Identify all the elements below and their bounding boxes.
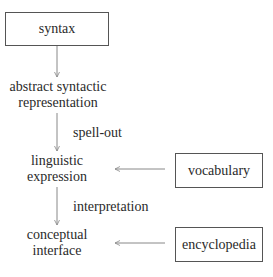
arrows-layer <box>0 0 273 277</box>
